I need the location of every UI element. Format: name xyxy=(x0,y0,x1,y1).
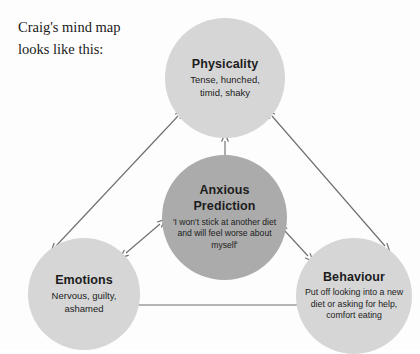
node-behaviour-title: Behaviour xyxy=(323,270,385,284)
node-anxious-prediction[interactable]: Anxious Prediction 'I won't stick at ano… xyxy=(162,155,287,280)
page-title-line-1: Craig's mind map xyxy=(18,16,188,38)
arrow-behaviour-anxious-prediction xyxy=(284,230,308,256)
node-anxious-prediction-title-line-2: Prediction xyxy=(193,199,255,214)
page-title: Craig's mind map looks like this: xyxy=(18,16,188,61)
arrow-emotions-anxious-prediction xyxy=(126,224,160,253)
node-physicality-title: Physicality xyxy=(192,57,258,71)
node-behaviour[interactable]: Behaviour Put off looking into a new die… xyxy=(296,238,412,354)
node-emotions-title: Emotions xyxy=(55,273,113,287)
arrow-physicality-emotions xyxy=(56,116,178,246)
node-anxious-prediction-title: Anxious Prediction xyxy=(193,183,255,214)
node-emotions-description: Nervous, guilty, ashamed xyxy=(41,290,127,315)
page-title-line-2: looks like this: xyxy=(18,38,188,60)
node-anxious-prediction-description: 'I won't stick at another diet and will … xyxy=(169,217,281,252)
node-emotions[interactable]: Emotions Nervous, guilty, ashamed xyxy=(28,238,140,350)
node-physicality-description: Tense, hunched, timid, shaky xyxy=(181,74,269,99)
node-behaviour-description: Put off looking into a new diet or askin… xyxy=(302,287,406,322)
node-anxious-prediction-title-line-1: Anxious xyxy=(193,183,255,198)
arrow-physicality-behaviour xyxy=(272,116,385,246)
